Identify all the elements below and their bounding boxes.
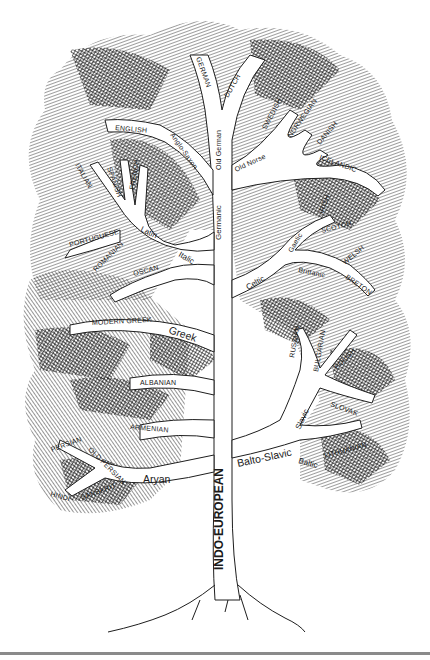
language-tree-illustration: INDO-EUROPEAN Germanic GERMAN DUTCH Old … — [0, 0, 430, 660]
label-old-german: Old German — [215, 130, 222, 170]
label-aryan: Aryan — [143, 473, 171, 485]
bottom-divider — [0, 652, 430, 655]
label-germanic: Germanic — [214, 205, 223, 240]
label-albanian: ALBANIAN — [140, 379, 176, 386]
root-label-indo-european: INDO-EUROPEAN — [212, 468, 226, 570]
label-italic: Italic — [177, 250, 196, 266]
